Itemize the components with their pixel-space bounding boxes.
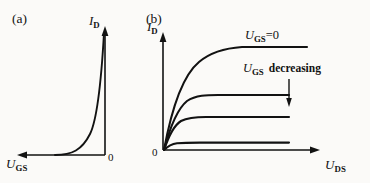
panel-b-y-axis-subscript: D xyxy=(151,26,158,36)
ugs-decreasing-arrow xyxy=(286,79,292,107)
figure-container: (a) ID UGS 0 (b) ID UDS 0 UGS=0 UGSdecre… xyxy=(0,0,370,183)
ugs-zero-equals-value: =0 xyxy=(266,28,279,42)
ugs-decreasing-subscript: GS xyxy=(252,67,264,77)
panel-a-y-axis-label: ID xyxy=(89,14,100,27)
output-curve-4 xyxy=(164,143,289,150)
panel-b-x-axis-label: UDS xyxy=(325,158,346,171)
ugs-zero-subscript: GS xyxy=(254,34,266,44)
panel-b-x-axis-subscript: DS xyxy=(334,164,346,174)
ugs-decreasing-label: UGSdecreasing xyxy=(243,62,321,75)
panel-b-origin-label: 0 xyxy=(152,147,158,158)
ugs-zero-curve-label: UGS=0 xyxy=(245,29,279,42)
panel-a-x-axis-subscript: GS xyxy=(15,163,27,173)
ugs-decreasing-symbol: U xyxy=(243,61,252,75)
panel-a-axes xyxy=(17,26,108,158)
panel-b-y-axis-label: ID xyxy=(147,20,158,33)
panel-a-x-axis-symbol: U xyxy=(6,156,15,171)
panel-a-x-axis-label: UGS xyxy=(6,157,28,170)
panel-b-x-axis-symbol: U xyxy=(325,157,334,172)
ugs-decreasing-word: decreasing xyxy=(269,62,321,74)
panel-a-y-axis-arrowhead xyxy=(102,26,109,36)
panel-b-x-axis-arrowhead xyxy=(310,147,320,154)
panel-b-y-axis-arrowhead xyxy=(160,32,167,42)
panel-a-y-axis-subscript: D xyxy=(93,20,100,30)
panel-a-origin-label: 0 xyxy=(108,152,114,163)
figure-svg xyxy=(0,0,370,183)
panel-a-tag: (a) xyxy=(12,12,27,26)
output-curve-3 xyxy=(164,117,289,150)
ugs-zero-symbol: U xyxy=(245,28,254,42)
transfer-characteristic-curve xyxy=(55,33,104,155)
panel-b-axes xyxy=(160,32,320,153)
